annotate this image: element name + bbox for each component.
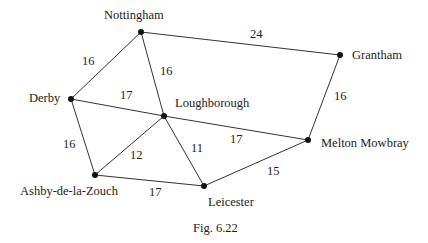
- node-label-melton: Melton Mowbray: [321, 137, 409, 150]
- node-nottingham: [138, 29, 144, 35]
- edge-weight: 17: [230, 133, 243, 146]
- node-grantham: [337, 52, 343, 58]
- edge-nottingham-grantham: [141, 32, 340, 55]
- edge-leicester-melton: [204, 140, 308, 186]
- node-loughborough: [161, 113, 167, 119]
- node-label-loughborough: Loughborough: [175, 97, 249, 110]
- edge-weight: 24: [250, 28, 263, 41]
- edge-weight: 17: [120, 89, 133, 102]
- edge-derby-loughborough: [71, 99, 164, 116]
- node-label-nottingham: Nottingham: [104, 9, 164, 22]
- edge-weight: 16: [334, 90, 347, 103]
- figure-caption: Fig. 6.22: [193, 222, 238, 235]
- node-label-leicester: Leicester: [208, 196, 254, 209]
- edge-weight: 16: [63, 138, 76, 151]
- edge-weight: 17: [149, 186, 162, 199]
- edge-weight: 16: [82, 55, 95, 68]
- edge-weight: 11: [191, 142, 203, 155]
- node-melton: [305, 137, 311, 143]
- node-derby: [68, 96, 74, 102]
- edge-weight: 12: [130, 149, 143, 162]
- node-ashby: [92, 172, 98, 178]
- node-label-derby: Derby: [29, 92, 60, 105]
- node-label-ashby: Ashby-de-la-Zouch: [20, 185, 118, 198]
- node-label-grantham: Grantham: [352, 49, 402, 62]
- edge-weight: 15: [267, 165, 280, 178]
- edge-weight: 16: [160, 65, 173, 78]
- node-leicester: [201, 183, 207, 189]
- edge-loughborough-ashby: [95, 116, 164, 175]
